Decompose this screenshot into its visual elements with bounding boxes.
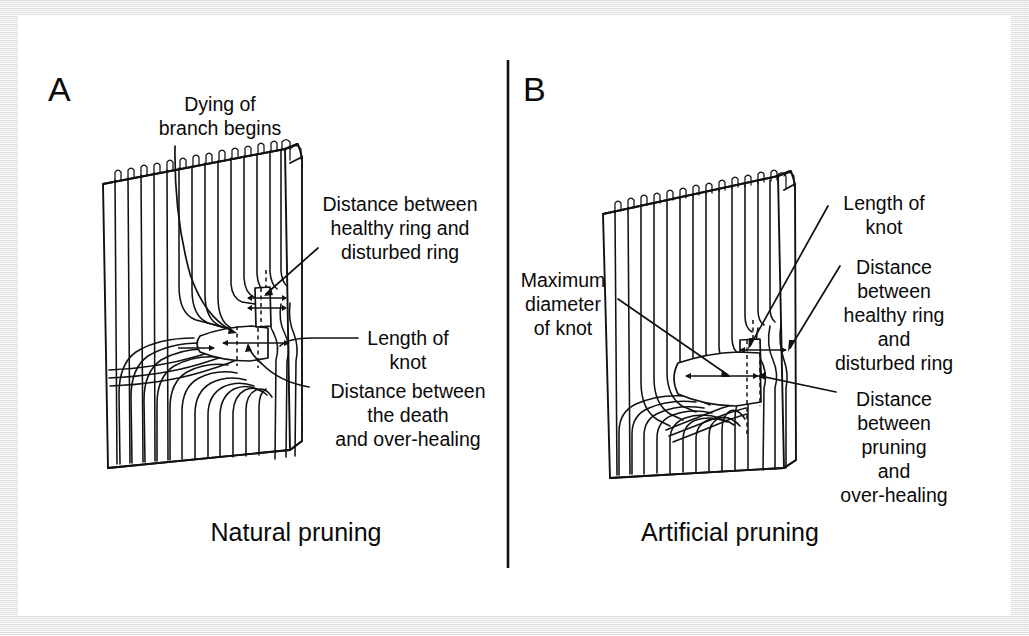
annotation-b-pruning-overhealing-line1: Distance [856, 388, 932, 410]
annotation-b-length-of-knot-line2: knot [866, 216, 903, 238]
annotation-b-pruning-overhealing-line2: between [857, 412, 931, 434]
annotation-b-healthy-disturbed-line4: and [878, 328, 911, 350]
block-a-rings-left [115, 170, 168, 464]
annotation-a-length-of-knot-line2: knot [390, 351, 427, 373]
panel-b-label: B [523, 70, 546, 108]
block-b-bottom-edge [610, 460, 796, 478]
block-a-rings-overhealing [269, 303, 297, 459]
panel-a: A [48, 70, 486, 546]
annotation-b-max-diameter-leader [618, 299, 728, 375]
panel-a-wood-block [103, 140, 302, 469]
annotation-a-healthy-disturbed-line1: Distance between [322, 193, 477, 215]
annotation-a-healthy-disturbed-line2: healthy ring and [331, 217, 470, 239]
annotation-a-length-of-knot-leader [280, 338, 358, 346]
annotation-b-max-diameter-line3: of knot [534, 317, 593, 339]
annotation-b-healthy-disturbed-line1: Distance [856, 256, 932, 278]
annotation-b-healthy-disturbed-line3: healthy ring [844, 304, 945, 326]
block-a-top-back-edge [103, 144, 297, 184]
panel-b: B [521, 70, 953, 546]
annotation-b-pruning-overhealing-leader [760, 376, 836, 392]
figure-root: A [0, 0, 1029, 636]
knot-b-body [674, 352, 761, 406]
annotation-b-healthy-disturbed-line5: disturbed ring [835, 352, 953, 374]
annotation-b-healthy-disturbed-line2: between [857, 280, 931, 302]
annotation-b-length-of-knot-leader [750, 206, 828, 346]
annotation-a-death-overhealing-line2: the death [367, 404, 448, 426]
knot-formation-diagram: A [18, 16, 1011, 616]
annotation-a-dying-branch-line1: Dying of [184, 93, 256, 115]
annotation-a-dying-branch-line2: branch begins [159, 117, 282, 139]
annotation-b-max-diameter-line1: Maximum [521, 269, 606, 291]
panel-a-label: A [48, 70, 71, 108]
annotation-a-healthy-disturbed-leader [266, 248, 318, 294]
block-b-rings-left [615, 208, 630, 475]
annotation-b-pruning-overhealing-line4: and [878, 460, 911, 482]
annotation-b-healthy-disturbed: Distance between healthy ring and distur… [788, 256, 953, 374]
block-b-top-back-edge [603, 171, 790, 214]
block-a-top-face-rings [115, 140, 301, 182]
annotation-a-healthy-disturbed-line3: disturbed ring [341, 241, 459, 263]
annotation-a-dying-branch-leader [175, 146, 232, 331]
annotation-b-max-diameter-line2: diameter [525, 293, 601, 315]
panel-b-caption: Artificial pruning [641, 518, 819, 546]
block-a-rings-upper-collar [231, 150, 287, 304]
annotation-a-length-of-knot-line1: Length of [367, 327, 449, 349]
annotation-b-pruning-overhealing-line3: pruning [861, 436, 926, 458]
panel-b-wood-block [603, 170, 796, 478]
annotation-a-healthy-disturbed: Distance between healthy ring and distur… [264, 193, 478, 296]
figure-canvas: A [18, 16, 1011, 616]
annotation-a-death-overhealing-line1: Distance between [330, 380, 485, 402]
annotation-b-pruning-overhealing-line5: over-healing [840, 484, 947, 506]
block-a-bottom-edge [108, 441, 302, 468]
panel-a-caption: Natural pruning [211, 518, 382, 546]
annotation-b-length-of-knot-line1: Length of [843, 192, 925, 214]
annotation-a-death-overhealing: Distance between the death and over-heal… [245, 343, 486, 450]
annotation-a-length-of-knot: Length of knot [280, 327, 449, 373]
annotation-b-healthy-disturbed-leader [790, 266, 840, 348]
annotation-a-death-overhealing-line3: and over-healing [335, 428, 480, 450]
